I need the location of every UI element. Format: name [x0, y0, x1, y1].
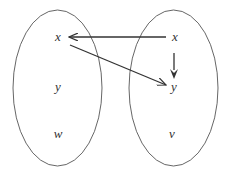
left-label-y: y	[53, 79, 61, 94]
right-label-v: v	[169, 126, 175, 141]
right-label-y: y	[169, 79, 177, 94]
right-label-x: x	[171, 29, 178, 44]
mapping-diagram: x y w x y v	[0, 0, 229, 176]
arrowhead-down-icon	[170, 69, 178, 79]
left-label-x: x	[54, 29, 61, 44]
arrow-left-x-to-right-y	[70, 45, 166, 85]
left-label-w: w	[54, 126, 63, 141]
